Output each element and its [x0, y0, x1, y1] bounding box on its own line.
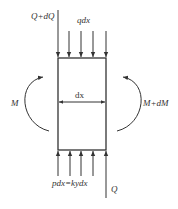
moment-right-label: M+dM: [142, 98, 169, 108]
distributed-load-label: qdx: [77, 15, 90, 25]
width-label: dx: [75, 90, 85, 100]
moment-left-arc: [25, 77, 49, 131]
moment-left-label: M: [10, 98, 19, 108]
bottom-reaction-arrows: [58, 151, 106, 198]
shear-top-label: Q+dQ: [31, 11, 55, 21]
shear-bottom-label: Q: [111, 184, 118, 194]
reaction-label: pdx=kydx: [51, 178, 88, 188]
moment-right-arc: [117, 77, 141, 131]
beam-element-box: [58, 58, 106, 150]
beam-element-diagram: Q+dQ qdx dx M M+dM pdx=kydx Q: [0, 0, 178, 209]
